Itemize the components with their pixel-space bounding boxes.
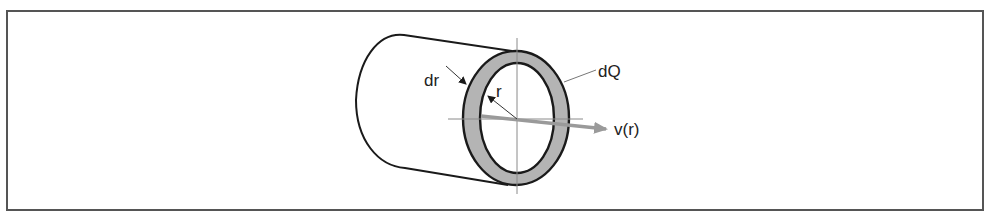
r-label: r <box>496 82 502 101</box>
dr-arrow <box>446 66 466 84</box>
pipe-flow-diagram: dr r dQ v(r) <box>0 0 990 223</box>
velocity-label: v(r) <box>614 120 639 139</box>
dq-label: dQ <box>598 62 621 81</box>
dq-leader-line <box>564 70 596 82</box>
dr-label: dr <box>424 71 439 90</box>
velocity-arrow <box>481 116 606 129</box>
